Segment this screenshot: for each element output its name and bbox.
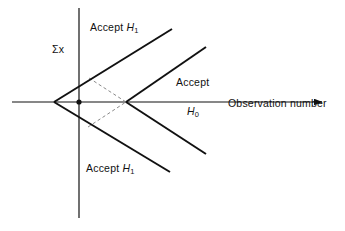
- x-axis-label: Observation number: [228, 98, 327, 109]
- dashed-upper-connector: [89, 78, 126, 102]
- upper-boundary-left-wedge: [54, 29, 172, 102]
- upper-boundary-right-wedge: [126, 47, 206, 102]
- origin-dot-marker: [76, 99, 81, 104]
- hypothesis-subscript-null: 0: [195, 110, 199, 119]
- label-accept-h1-upper: Accept H1: [90, 22, 139, 33]
- figure-container: Accept H1 Accept H1 Accept H0 Σx Observa…: [0, 0, 345, 231]
- sequential-test-diagram: [0, 0, 345, 231]
- dashed-lower-connector: [88, 102, 126, 127]
- accept-word-lower: Accept: [86, 162, 119, 174]
- hypothesis-symbol-null: H: [187, 105, 195, 117]
- hypothesis-subscript-lower: 1: [130, 167, 134, 176]
- hypothesis-subscript-upper: 1: [134, 26, 138, 35]
- y-axis-label: Σx: [52, 44, 64, 55]
- label-accept-h0-word: Accept: [176, 77, 209, 88]
- label-accept-h1-lower: Accept H1: [86, 163, 135, 174]
- label-accept-h0-symbol: H0: [187, 106, 199, 117]
- accept-word-upper: Accept: [90, 21, 123, 33]
